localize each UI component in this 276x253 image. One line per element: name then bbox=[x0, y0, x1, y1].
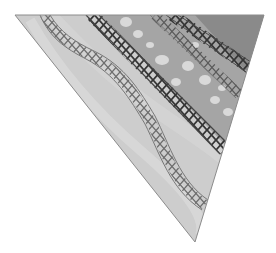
fabric-body bbox=[0, 0, 276, 253]
fabric-triangle-photo bbox=[0, 0, 276, 253]
